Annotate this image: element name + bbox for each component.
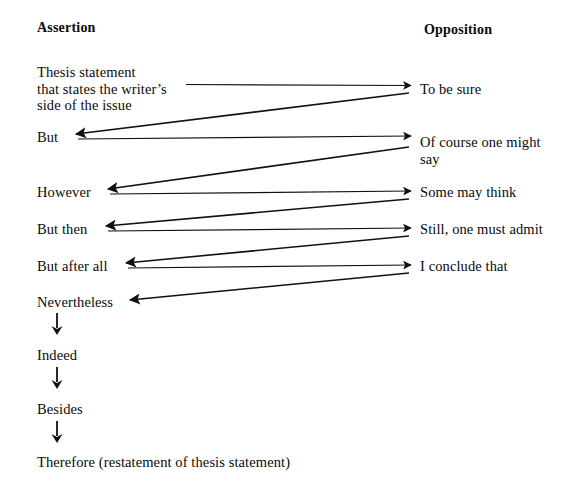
assertion-node-but-after-all: But after all <box>37 258 108 275</box>
opposition-node-of-course-one-might-say: Of course one might say <box>420 134 541 167</box>
arrow-but-to-of-course <box>78 136 411 139</box>
arrow-still-to-but-after-all <box>126 236 409 263</box>
assertion-node-but-then: But then <box>37 221 87 238</box>
opposition-node-to-be-sure: To be sure <box>420 81 481 98</box>
opposition-node-i-conclude-that: I conclude that <box>420 258 508 275</box>
column-header-assertion: Assertion <box>37 20 96 36</box>
arrow-indeed-to-besides <box>47 367 67 389</box>
column-header-opposition: Opposition <box>424 22 492 38</box>
arrow-some-may-think-to-but-then <box>106 199 409 226</box>
assertion-node-nevertheless: Nevertheless <box>37 294 113 311</box>
arrow-besides-to-therefore <box>47 421 67 443</box>
arrow-nevertheless-to-indeed <box>47 313 67 335</box>
opposition-node-still-one-must-admit: Still, one must admit <box>420 221 543 238</box>
assertion-node-thesis: Thesis statement that states the writer’… <box>37 64 167 114</box>
arrow-i-conclude-to-nevertheless <box>130 273 409 300</box>
arrow-however-to-some-may-think <box>110 191 411 194</box>
diagram-canvas: Assertion Opposition Thesis statement th… <box>0 0 579 484</box>
assertion-node-but: But <box>37 129 58 146</box>
assertion-node-however: However <box>37 184 91 201</box>
assertion-node-indeed: Indeed <box>37 347 77 364</box>
opposition-node-some-may-think: Some may think <box>420 184 516 201</box>
arrow-of-course-to-however <box>108 147 409 189</box>
arrow-thesis-to-to-be-sure <box>186 85 411 86</box>
assertion-node-therefore: Therefore (restatement of thesis stateme… <box>37 454 290 471</box>
arrow-but-after-all-to-i-conclude <box>128 265 411 268</box>
assertion-node-besides: Besides <box>37 401 83 418</box>
arrow-but-then-to-still <box>108 228 411 231</box>
